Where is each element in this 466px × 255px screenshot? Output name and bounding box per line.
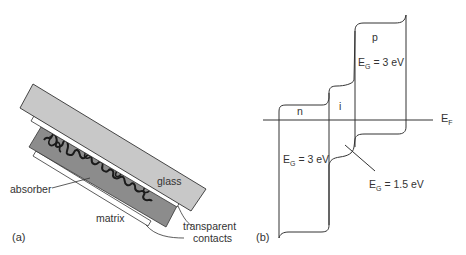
fermi-sub: F: [448, 119, 452, 126]
absorber-label: absorber: [10, 184, 51, 195]
region-p-label: p: [372, 32, 378, 43]
i-bandgap-label: EG = 1.5 eV: [369, 179, 424, 190]
n-bandgap-label: EG = 3 eV: [283, 154, 329, 165]
glass-label: glass: [157, 176, 182, 187]
panel-b-label: (b): [256, 232, 269, 243]
matrix-label: matrix: [96, 213, 125, 224]
fermi-level-label: EF: [441, 113, 453, 124]
region-n-label: n: [297, 106, 303, 117]
transparent-label: transparent: [183, 221, 236, 232]
i-bandgap-leader: [345, 145, 375, 171]
region-i-label: i: [339, 101, 341, 112]
figure-canvas: [0, 0, 466, 255]
panel-a-label: (a): [12, 232, 25, 243]
panel-b-band-diagram: [263, 15, 433, 238]
contacts-label: contacts: [193, 233, 232, 244]
contacts-leader-lower: [146, 225, 184, 238]
p-bandgap-label: EG = 3 eV: [358, 57, 404, 68]
